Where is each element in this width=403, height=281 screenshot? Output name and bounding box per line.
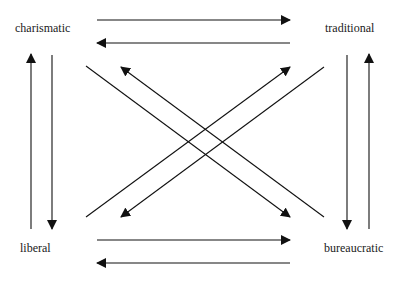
node-label-traditional: traditional	[325, 21, 374, 35]
arrows-layer	[0, 0, 403, 281]
node-label-bureaucratic: bureaucratic	[324, 241, 383, 255]
node-label-charismatic: charismatic	[15, 21, 70, 35]
typology-diagram: charismatic traditional liberal bureaucr…	[0, 0, 403, 281]
node-label-liberal: liberal	[20, 241, 51, 255]
